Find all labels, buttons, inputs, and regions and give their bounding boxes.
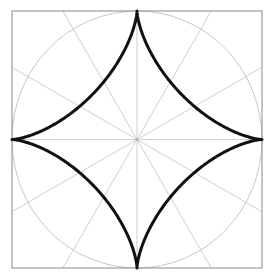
astroid-figure: Astroid inscribed in a square with polar… [0,0,271,278]
grid-center-dot [135,138,138,141]
figure-container: Astroid inscribed in a square with polar… [0,0,271,278]
